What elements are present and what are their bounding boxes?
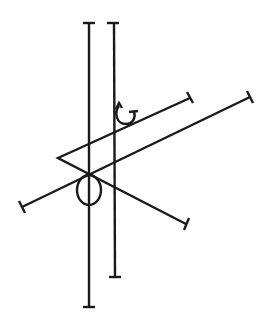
folded-diagonal: [58, 92, 193, 230]
diagonal-long: [19, 91, 253, 213]
diagram-svg: [0, 0, 267, 330]
diagram-canvas: [0, 0, 267, 330]
vertical-rod-left: [83, 23, 95, 307]
vertical-rod-right: [107, 23, 121, 277]
rotation-arrow-icon: [116, 103, 138, 124]
